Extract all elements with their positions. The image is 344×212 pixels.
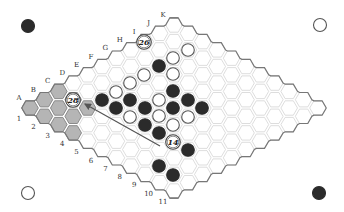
- column-label: H: [117, 36, 123, 44]
- hex-cell-H8[interactable]: [223, 101, 240, 115]
- column-label: F: [89, 53, 94, 61]
- hex-cell-C3[interactable]: [79, 101, 96, 115]
- hex-cell-H9[interactable]: [238, 109, 255, 123]
- hex-cell-C9[interactable]: [166, 151, 183, 165]
- hex-cell-D10[interactable]: [195, 151, 212, 165]
- hex-cell-G2[interactable]: [123, 59, 140, 73]
- hex-board: ABCDEFGHIJK1234567891011 262814: [0, 0, 344, 212]
- hex-cell-J4[interactable]: [195, 51, 212, 65]
- hex-cell-B5[interactable]: [94, 126, 111, 140]
- black-stone: [182, 144, 195, 157]
- black-stone: [139, 119, 152, 132]
- white-stone: [167, 68, 180, 81]
- white-stone: [153, 110, 166, 123]
- row-label: 1: [17, 115, 21, 123]
- white-stone: [110, 86, 123, 99]
- row-label: 11: [159, 198, 168, 206]
- hex-cell-B4[interactable]: [79, 117, 96, 131]
- corner-marker-bottom-left-icon: [22, 187, 35, 200]
- hex-cell-H7[interactable]: [209, 93, 226, 107]
- white-stone: [153, 94, 166, 107]
- hex-cell-B8[interactable]: [137, 151, 154, 165]
- black-stone: [167, 102, 180, 115]
- hex-cell-G8[interactable]: [209, 109, 226, 123]
- hex-cell-F10[interactable]: [223, 134, 240, 148]
- row-label: 8: [118, 173, 122, 181]
- row-label: 10: [144, 190, 153, 198]
- hex-cell-G10[interactable]: [238, 126, 255, 140]
- black-stone: [167, 169, 180, 182]
- move-number: 26: [137, 37, 150, 47]
- black-stone: [182, 94, 195, 107]
- hex-cell-J7[interactable]: [238, 76, 255, 90]
- column-label: B: [31, 86, 36, 94]
- hex-cell-J6[interactable]: [223, 68, 240, 82]
- row-label: 9: [132, 181, 136, 189]
- hex-cell-G9[interactable]: [223, 117, 240, 131]
- hex-cell-H10[interactable]: [252, 117, 269, 131]
- hex-cell-F2[interactable]: [108, 68, 125, 82]
- black-stone: [110, 102, 123, 115]
- column-label: G: [103, 44, 109, 52]
- row-label: 3: [46, 132, 50, 140]
- column-label: I: [133, 28, 136, 36]
- white-stone: [138, 69, 151, 82]
- hex-cell-J9[interactable]: [267, 93, 284, 107]
- hex-cell-B6[interactable]: [108, 134, 125, 148]
- black-stone: [153, 127, 166, 140]
- column-label: J: [146, 19, 150, 27]
- hex-cell-B3[interactable]: [65, 109, 82, 123]
- hex-cell-I4[interactable]: [180, 59, 197, 73]
- column-label: D: [59, 69, 65, 77]
- move-number: 14: [167, 137, 179, 147]
- hex-cell-G4[interactable]: [151, 76, 168, 90]
- hex-cell-B2[interactable]: [51, 101, 68, 115]
- corner-marker-top-left-icon: [22, 20, 35, 33]
- hex-cell-I7[interactable]: [223, 84, 240, 98]
- row-label: 7: [103, 165, 107, 173]
- white-stone: [167, 119, 180, 132]
- hex-cell-C10[interactable]: [180, 159, 197, 173]
- hex-cell-E2[interactable]: [94, 76, 111, 90]
- black-stone: [139, 102, 152, 115]
- hex-cell-H2[interactable]: [137, 51, 154, 65]
- move-number: 28: [66, 95, 79, 105]
- hex-cell-I10[interactable]: [267, 109, 284, 123]
- column-label: C: [45, 77, 50, 85]
- hex-cell-I8[interactable]: [238, 93, 255, 107]
- hex-cell-I5[interactable]: [195, 68, 212, 82]
- hex-cell-E9[interactable]: [195, 134, 212, 148]
- corner-marker-top-right-icon: [314, 19, 327, 32]
- black-stone: [196, 102, 209, 115]
- hex-cell-I6[interactable]: [209, 76, 226, 90]
- row-label: 6: [89, 157, 94, 165]
- hex-cell-J8[interactable]: [252, 84, 269, 98]
- hex-cell-H6[interactable]: [195, 84, 212, 98]
- corner-marker-bottom-right-icon: [313, 187, 326, 200]
- row-label: 4: [60, 140, 65, 148]
- hex-cell-I2[interactable]: [151, 43, 168, 57]
- hex-cell-J2[interactable]: [166, 34, 183, 48]
- hex-cell-J5[interactable]: [209, 59, 226, 73]
- white-stone: [182, 44, 195, 57]
- hex-cell-H5[interactable]: [180, 76, 197, 90]
- column-label: E: [74, 61, 79, 69]
- hex-cell-E10[interactable]: [209, 142, 226, 156]
- black-stone: [167, 85, 180, 98]
- white-stone: [167, 52, 180, 65]
- white-stone: [124, 77, 137, 90]
- white-stone: [182, 111, 195, 124]
- hex-cell-J10[interactable]: [281, 101, 298, 115]
- hex-cell-C8[interactable]: [151, 142, 168, 156]
- row-label: 2: [31, 123, 35, 131]
- hex-cell-F4[interactable]: [137, 84, 154, 98]
- hex-cell-I9[interactable]: [252, 101, 269, 115]
- black-stone: [96, 94, 109, 107]
- hex-cell-F8[interactable]: [195, 117, 212, 131]
- hex-cell-E8[interactable]: [180, 126, 197, 140]
- black-stone: [153, 60, 166, 73]
- hex-cell-F9[interactable]: [209, 126, 226, 140]
- black-stone: [153, 160, 166, 173]
- hex-cell-D2[interactable]: [79, 84, 96, 98]
- hex-cell-B7[interactable]: [123, 142, 140, 156]
